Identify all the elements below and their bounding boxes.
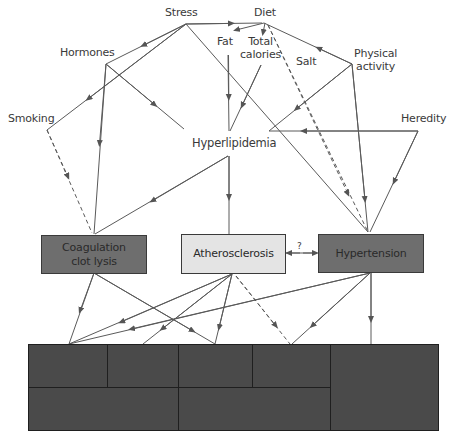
box-hypertension: Hypertension bbox=[318, 234, 424, 273]
label-hyperlipidemia: Hyperlipidemia bbox=[192, 137, 276, 150]
outcome-cell-1 bbox=[28, 344, 108, 388]
label-total-calories-line1: Total bbox=[240, 35, 281, 48]
outcome-cell-2 bbox=[107, 344, 179, 388]
box-atherosclerosis-label: Atherosclerosis bbox=[193, 247, 274, 261]
label-total-calories-line2: calories bbox=[240, 48, 281, 61]
uncertain-link-label: ? bbox=[297, 240, 302, 253]
box-coagulation-line2: clot lysis bbox=[62, 255, 126, 269]
label-physical-activity: Physical activity bbox=[354, 47, 397, 73]
outcome-cell-3 bbox=[178, 344, 253, 388]
label-stress: Stress bbox=[165, 6, 198, 19]
outcome-cell-5 bbox=[28, 387, 179, 431]
box-coagulation: Coagulation clot lysis bbox=[41, 235, 147, 274]
box-atherosclerosis: Atherosclerosis bbox=[181, 234, 286, 274]
outcome-cell-4 bbox=[252, 344, 331, 388]
label-hormones: Hormones bbox=[60, 46, 115, 59]
label-fat: Fat bbox=[217, 35, 233, 48]
box-coagulation-line1: Coagulation bbox=[62, 241, 126, 255]
label-physical-activity-line2: activity bbox=[354, 60, 397, 73]
outcome-cell-6 bbox=[178, 387, 331, 431]
label-total-calories: Total calories bbox=[240, 35, 281, 61]
outcome-cell-7 bbox=[330, 344, 439, 431]
label-heredity: Heredity bbox=[401, 112, 446, 125]
label-smoking: Smoking bbox=[8, 112, 54, 125]
label-salt: Salt bbox=[296, 55, 316, 68]
label-diet: Diet bbox=[254, 6, 276, 19]
label-physical-activity-line1: Physical bbox=[354, 47, 397, 60]
box-hypertension-label: Hypertension bbox=[335, 247, 406, 261]
outcome-block bbox=[28, 344, 439, 431]
